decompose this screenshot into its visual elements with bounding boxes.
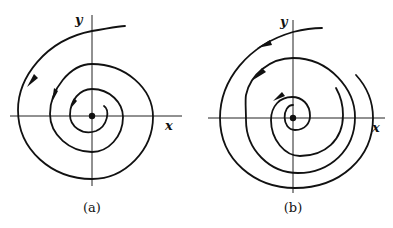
x-axis-label: x (164, 118, 173, 133)
origin-point (89, 113, 95, 119)
phase-portrait-figure: y x (a) y x (b) (0, 0, 393, 228)
origin-point (290, 115, 296, 121)
x-axis-label: x (371, 120, 380, 135)
direction-arrow-icon (27, 74, 38, 87)
panel-caption: (b) (284, 200, 302, 215)
spiral-trajectory (220, 28, 373, 188)
spiral-trajectory (271, 88, 343, 156)
panel-a: y x (a) (10, 12, 182, 215)
direction-arrow-icon (257, 40, 272, 48)
direction-arrow-icon (253, 68, 266, 80)
panel-b: y x (b) (208, 14, 385, 215)
panel-caption: (a) (83, 200, 101, 215)
spiral-trajectory (18, 26, 153, 179)
y-axis-label: y (74, 12, 84, 27)
y-axis-label: y (279, 14, 289, 29)
